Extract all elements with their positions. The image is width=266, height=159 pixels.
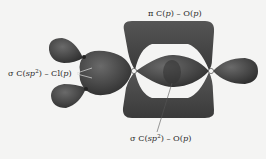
label-sigma-c-cl: σ C(sp2) – Cl(p) [8,69,72,77]
label-text: C( [16,68,25,78]
chlorine-upper-lobe [49,38,83,63]
label-symbol: σ [8,68,14,78]
chlorine-lower-node [84,87,88,91]
label-text: ) – O( [161,133,183,143]
sigma-c-o-core [163,60,181,84]
chlorine-lower-lobe [51,84,86,108]
label-symbol: π [148,8,153,18]
label-orbital: sp [26,68,35,78]
oxygen-atom-node [208,68,213,73]
label-sigma-c-o: σ C(sp2) – O(p) [130,134,191,142]
label-pi-c-o: π C(p) – O(p) [148,9,202,17]
chlorine-upper-node [82,55,86,59]
oxygen-right-lobe [213,58,258,84]
label-text: ) – O( [171,8,193,18]
label-orbital: sp [148,133,157,143]
label-text: ) [188,133,191,143]
label-text: C( [138,133,147,143]
label-text: ) [198,8,201,18]
orbital-diagram: π C(p) – O(p) σ C(sp2) – Cl(p) σ C(sp2) … [0,0,266,159]
carbon-atom-node [131,68,136,73]
label-text: ) [68,68,71,78]
label-text: ) – Cl( [39,68,64,78]
label-symbol: σ [130,133,136,143]
